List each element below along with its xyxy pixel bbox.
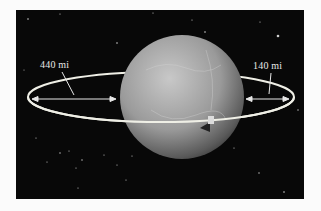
space-illustration: 440 mi 140 mi <box>16 10 304 199</box>
left-distance-label: 440 mi <box>40 59 69 70</box>
right-distance-label: 140 mi <box>253 60 282 71</box>
planet <box>120 35 244 159</box>
orbit-diagram <box>16 10 304 199</box>
